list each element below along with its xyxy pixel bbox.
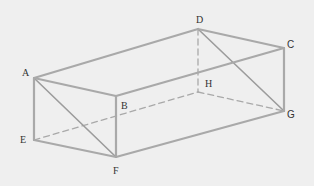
vertex-label-b: B [121, 100, 128, 111]
diagonals [34, 29, 284, 157]
rectangular-prism-diagram: A B C D E F G H [0, 0, 314, 186]
edge-cb [116, 48, 284, 96]
vertex-labels: A B C D E F G H [20, 14, 295, 176]
vertex-label-c: C [287, 39, 294, 50]
vertex-label-h: H [205, 78, 212, 89]
edge-ef [34, 140, 116, 157]
visible-edges [34, 29, 284, 157]
vertex-label-e: E [20, 134, 26, 145]
vertex-label-f: F [113, 165, 119, 176]
diagonal-af [34, 78, 116, 157]
edge-fg [116, 111, 284, 157]
hidden-edge-hg [198, 92, 284, 111]
vertex-label-d: D [196, 14, 203, 25]
edge-ad [34, 29, 198, 78]
vertex-label-a: A [22, 67, 30, 78]
vertex-label-g: G [287, 109, 295, 120]
edge-ba [34, 78, 116, 96]
edge-dc [198, 29, 284, 48]
